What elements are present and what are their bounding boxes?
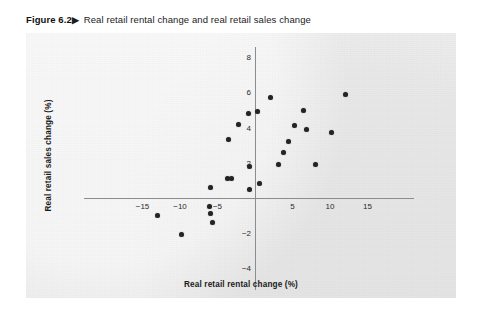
- data-point: [281, 150, 286, 155]
- data-point: [255, 109, 260, 114]
- data-point: [210, 220, 215, 225]
- x-tick-label: 10: [326, 202, 335, 211]
- data-point: [292, 123, 297, 128]
- data-point: [179, 232, 184, 237]
- figure-caption: Real retail rental change and real retai…: [84, 14, 311, 25]
- data-point: [329, 130, 334, 135]
- x-tick-label: −10: [173, 202, 187, 211]
- x-tick-label: 5: [290, 202, 294, 211]
- y-tick-label: 6: [237, 88, 251, 97]
- data-point: [304, 127, 309, 132]
- data-point: [207, 204, 212, 209]
- figure-arrow-icon: ▶: [72, 15, 81, 25]
- data-point: [247, 187, 252, 192]
- y-axis-title: Real retail sales change (%): [44, 86, 53, 226]
- figure-title: Figure 6.2▶ Real retail rental change an…: [26, 14, 456, 30]
- data-point: [226, 137, 231, 142]
- x-tick-label: −15: [136, 202, 150, 211]
- y-tick-label: 4: [237, 123, 251, 132]
- data-point: [208, 185, 213, 190]
- data-point: [257, 181, 262, 186]
- y-tick-label: −2: [237, 229, 251, 238]
- data-point: [286, 139, 291, 144]
- data-point: [155, 213, 160, 218]
- y-tick-label: 8: [237, 53, 251, 62]
- data-point: [313, 162, 318, 167]
- data-point: [208, 211, 213, 216]
- data-point: [301, 108, 306, 113]
- x-axis-title: Real retail rental change (%): [26, 280, 456, 289]
- data-point: [229, 176, 234, 181]
- data-point: [276, 162, 281, 167]
- x-tick-label: −5: [213, 202, 222, 211]
- x-tick-label: 15: [363, 202, 372, 211]
- y-tick-label: 2: [237, 158, 251, 167]
- chart-panel: Real retail rental change (%) Real retai…: [26, 33, 456, 298]
- data-point: [246, 111, 251, 116]
- figure-number: Figure 6.2: [26, 14, 72, 25]
- data-point: [343, 92, 348, 97]
- figure-page: Figure 6.2▶ Real retail rental change an…: [0, 0, 479, 315]
- data-point: [268, 95, 273, 100]
- y-tick-label: −4: [237, 264, 251, 273]
